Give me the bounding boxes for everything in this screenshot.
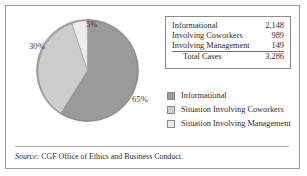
legend-swatch-icon — [167, 92, 175, 100]
table-cell-label: Involving Management — [172, 41, 262, 52]
table-cell-value: 989 — [262, 31, 284, 41]
table-row-total: Total Cases 3,286 — [172, 52, 284, 63]
table-row: Involving Management 149 — [172, 41, 284, 52]
table-cell-value: 149 — [262, 41, 284, 52]
table-cell-value: 2,148 — [262, 21, 284, 31]
table-row: Involving Coworkers 989 — [172, 31, 284, 41]
pie-svg — [36, 19, 139, 122]
legend: Informational Situation Involving Cowork… — [167, 91, 299, 134]
table-cell-total-value: 3,286 — [262, 52, 284, 63]
summary-table: Informational 2,148 Involving Coworkers … — [165, 16, 291, 69]
figure-frame: 5% 30% 65% Informational 2,148 Involving… — [5, 5, 300, 169]
source-prefix: Source: — [15, 152, 39, 161]
legend-swatch-icon — [167, 120, 175, 128]
source-note: Source: CGF Office of Ethics and Busines… — [15, 152, 183, 161]
table-row: Informational 2,148 — [172, 21, 284, 31]
pie-chart: 5% 30% 65% — [6, 6, 166, 142]
legend-item-informational: Informational — [167, 91, 299, 100]
legend-item-label: Situation Involving Management — [181, 119, 291, 128]
legend-item-management: Situation Involving Management — [167, 119, 299, 128]
pie-label-management: 5% — [86, 19, 98, 29]
pie-label-informational: 65% — [132, 94, 148, 104]
pie-label-coworkers: 30% — [29, 41, 45, 51]
legend-item-label: Situation Involving Coworkers — [181, 105, 284, 114]
pie-graphic — [36, 19, 139, 122]
footnote-divider — [15, 146, 289, 147]
table-cell-label: Involving Coworkers — [172, 31, 262, 41]
source-text: CGF Office of Ethics and Business Conduc… — [41, 152, 183, 161]
legend-item-coworkers: Situation Involving Coworkers — [167, 105, 299, 114]
table-cell-label: Informational — [172, 21, 262, 31]
legend-swatch-icon — [167, 106, 175, 114]
table-cell-total-label: Total Cases — [172, 52, 262, 63]
legend-item-label: Informational — [181, 91, 227, 100]
